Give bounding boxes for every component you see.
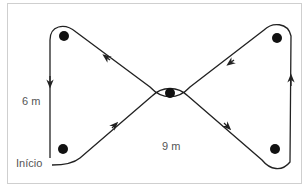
cone-center-icon <box>165 88 175 98</box>
vertical-distance-label: 6 m <box>22 95 40 107</box>
course-path-diagram <box>0 0 307 191</box>
start-label: Início <box>16 157 42 169</box>
cone-bottom-right-icon <box>270 144 280 154</box>
cone-bottom-left-icon <box>58 144 68 154</box>
arrow-icon <box>224 123 228 127</box>
horizontal-distance-label: 9 m <box>162 140 180 152</box>
arrow-icon <box>230 60 234 63</box>
cone-top-right-icon <box>272 33 282 43</box>
cone-top-left-icon <box>59 31 69 41</box>
